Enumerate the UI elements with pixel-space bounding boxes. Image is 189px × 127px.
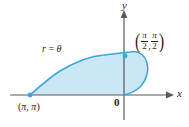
paren-open-large: ( [135,30,140,52]
point-label-pi-pi: (π, π) [18,102,40,112]
fraction-first: π 2 [141,31,148,51]
fraction-denominator: 2 [151,42,158,51]
y-axis-arrow [121,10,128,18]
fraction-numerator: π [141,31,148,40]
fraction-numerator: π [151,31,158,40]
marker-dot-half-pi [123,54,128,59]
fraction-denominator: 2 [141,42,148,51]
label-comma: , [26,101,29,112]
marker-dot-pi-pi [28,93,33,98]
point-label-half-pi: ( π 2 , π 2 ) [134,30,165,52]
origin-label: 0 [114,97,120,108]
polar-curve-figure: y x 0 r = θ (π, π) ( π 2 , π 2 ) [0,0,189,127]
fraction-second: π 2 [151,31,158,51]
x-axis-arrow [166,92,174,99]
curve-equation-label: r = θ [42,44,61,54]
paren-close: ) [36,101,39,112]
paren-close-large: ) [159,30,164,52]
x-axis-label: x [177,88,182,99]
y-axis-label: y [122,0,127,11]
curve-equation-theta: θ [57,43,62,54]
